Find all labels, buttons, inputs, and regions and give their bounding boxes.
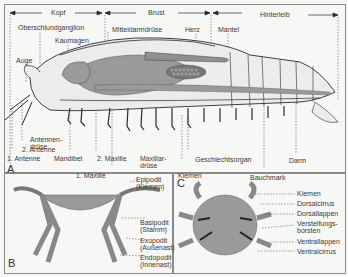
label-1-maxille: 1. Maxille: [76, 172, 106, 180]
label-oberschlundganglion: Oberschlundganglion: [18, 24, 84, 32]
label-2-maxille: 2. Maxille: [97, 155, 127, 163]
crustacean-body: [5, 38, 338, 131]
label-dorsallappen: Dorsallappen: [297, 210, 338, 218]
panel-letter-b: B: [8, 257, 15, 269]
label-ventralcirrus: Ventralcirrus: [297, 248, 336, 256]
label-kaumagen: Kaumagen: [55, 37, 89, 45]
label-1-antenne: 1. Antenne: [7, 155, 40, 163]
label-maxillardruese-2: drüse: [140, 162, 158, 170]
label-ventrallappen: Ventrallappen: [297, 238, 340, 246]
label-brust: Brust: [148, 9, 164, 17]
label-mitteldarmdruese: Mitteldarmdrüse: [112, 26, 162, 34]
label-mandibel: Mandibel: [54, 155, 82, 163]
label-basipodit-sub: (Stamm): [140, 226, 167, 234]
label-epipodit-sub: (Kiemen): [136, 183, 164, 191]
label-geschlechtsorgan: Geschlechtsorgan: [195, 156, 251, 164]
label-kopf: Kopf: [51, 9, 65, 17]
limb-diagram-b: [14, 180, 160, 262]
label-endopodit-sub: (Innenast): [140, 261, 172, 269]
panel-letter-a: A: [7, 163, 14, 175]
label-2-antenne: 2. Antenne: [22, 146, 55, 154]
label-kiemen-c: Kiemen: [297, 190, 321, 198]
panel-letter-c: C: [177, 177, 185, 189]
parapodium-diagram-c: [179, 183, 295, 255]
label-versteifungsborsten-2: borsten: [297, 227, 320, 235]
label-herz: Herz: [185, 26, 200, 34]
label-exopodit-sub: (Außenast): [140, 244, 175, 252]
label-dorsalcirrus: Dorsalcirrus: [297, 200, 334, 208]
label-hinterleib: Hinterleib: [260, 11, 290, 19]
label-mantel: Mantel: [218, 26, 239, 34]
label-bauchmark: Bauchmark: [250, 174, 285, 182]
label-auge: Auge: [16, 57, 32, 65]
label-darm: Darm: [289, 157, 306, 165]
figure: Kopf Brust Hinterleib Oberschlundganglio…: [0, 0, 348, 277]
